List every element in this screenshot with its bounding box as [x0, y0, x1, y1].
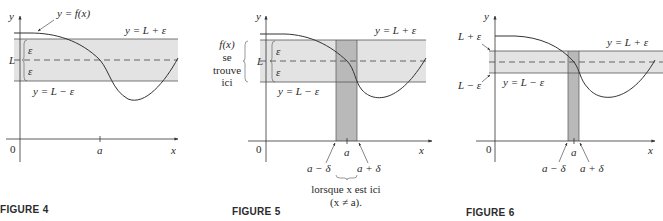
figure-4: y y = f(x) y = L + ε ε ε L y = L − ε 0 a…: [0, 7, 178, 215]
fx-range-brace: [243, 41, 248, 82]
a-label: a: [344, 146, 350, 158]
x-axis-label: x: [647, 144, 653, 156]
upper-line-label: y = L + ε: [374, 24, 417, 36]
delta-strip: [568, 51, 579, 141]
fx-note-line-4: ici: [222, 76, 233, 88]
a-minus-delta-label: a − δ: [542, 162, 566, 174]
figure-5: y y = L + ε ε ε L y = L − ε f(x) se trou…: [213, 10, 432, 217]
y-axis-label: y: [8, 10, 14, 22]
L-minus-eps-label: L − ε: [457, 79, 482, 91]
origin-label: 0: [10, 143, 16, 155]
epsilon-lower-label: ε: [276, 66, 281, 78]
upper-line-label: y = L + ε: [124, 24, 167, 36]
L-label: L: [256, 55, 263, 67]
lower-line-label: y = L − ε: [32, 85, 75, 97]
origin-label: 0: [486, 143, 492, 155]
a-plus-delta-label: a + δ: [357, 162, 381, 174]
epsilon-upper-label: ε: [28, 44, 33, 56]
a-label: a: [571, 146, 577, 158]
figure-caption: FIGURE 5: [232, 206, 281, 217]
figure-caption: FIGURE 6: [466, 207, 515, 218]
a-minus-delta-label: a − δ: [307, 162, 331, 174]
fx-note-line-1: f(x): [219, 38, 235, 51]
delta-strip: [336, 40, 357, 141]
x-range-brace: [336, 175, 357, 180]
x-axis-label: x: [418, 144, 424, 156]
a-plus-delta-arrow: [580, 143, 589, 162]
a-minus-delta-arrow: [326, 143, 335, 163]
a-minus-delta-arrow: [559, 143, 567, 162]
x-note-line-1: lorsque x est ici: [311, 183, 380, 195]
origin-label: 0: [256, 143, 262, 155]
figure-6: y L + ε L − ε y = L + ε y = L − ε 0 a x …: [457, 10, 663, 218]
a-plus-delta-label: a + δ: [580, 162, 604, 174]
fx-note-line-2: se: [222, 51, 231, 63]
figure-caption: FIGURE 4: [0, 204, 49, 215]
x-axis-label: x: [170, 144, 176, 156]
curve-pointer-arrow: [38, 20, 54, 31]
y-axis-label: y: [255, 10, 261, 22]
upper-line-label: y = L + ε: [606, 36, 649, 48]
a-label: a: [97, 144, 103, 156]
epsilon-upper-label: ε: [276, 45, 281, 57]
L-minus-eps-arrow: [482, 75, 490, 82]
lower-line-label: y = L − ε: [502, 76, 545, 88]
curve-label: y = f(x): [56, 7, 90, 20]
L-label: L: [8, 54, 15, 66]
limit-definition-figures: y y = f(x) y = L + ε ε ε L y = L − ε 0 a…: [0, 0, 663, 221]
fx-note-line-3: trouve: [213, 64, 241, 76]
y-axis-label: y: [483, 10, 489, 22]
L-plus-eps-label: L + ε: [457, 30, 482, 42]
a-plus-delta-arrow: [359, 143, 368, 163]
epsilon-lower-label: ε: [28, 65, 33, 77]
lower-line-label: y = L − ε: [277, 85, 320, 97]
L-plus-eps-arrow: [482, 44, 490, 50]
x-note-line-2: (x ≠ a).: [330, 196, 362, 209]
